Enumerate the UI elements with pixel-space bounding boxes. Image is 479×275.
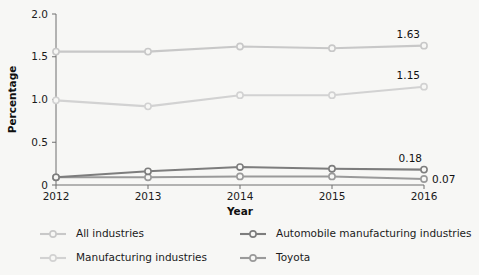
legend-item[interactable]: All industries	[40, 227, 144, 239]
y-axis-tick-label: 1.5	[31, 50, 48, 62]
legend-item-label: Automobile manufacturing industries	[276, 227, 472, 239]
legend-item-label: All industries	[76, 227, 144, 239]
legend-item-label: Toyota	[275, 251, 310, 263]
data-point-marker[interactable]	[53, 49, 59, 55]
data-point-marker[interactable]	[329, 166, 335, 172]
data-point-marker[interactable]	[329, 173, 335, 179]
data-point-marker[interactable]	[329, 45, 335, 51]
data-point-marker[interactable]	[421, 176, 427, 182]
line-chart: 00.51.01.52.020122013201420152016YearPer…	[0, 0, 479, 275]
x-axis-tick-label: 2016	[411, 190, 438, 202]
x-axis-tick-label: 2012	[43, 190, 70, 202]
data-point-label: 0.07	[432, 173, 455, 185]
series-manufacturing-industries	[53, 84, 427, 110]
data-point-marker[interactable]	[145, 49, 151, 55]
legend-item[interactable]: Toyota	[240, 251, 310, 263]
legend-swatch-marker	[250, 255, 256, 261]
y-axis-tick-label: 0.5	[31, 136, 48, 148]
y-axis-tick-label: 0	[41, 179, 48, 191]
x-axis-tick-label: 2013	[135, 190, 162, 202]
legend-swatch-marker	[50, 255, 56, 261]
y-axis-tick-label: 1.0	[31, 93, 48, 105]
x-axis-tick-label: 2014	[227, 190, 254, 202]
data-point-marker[interactable]	[421, 167, 427, 173]
legend-item[interactable]: Manufacturing industries	[40, 251, 207, 263]
data-point-marker[interactable]	[53, 97, 59, 103]
data-point-marker[interactable]	[237, 92, 243, 98]
legend-item-label: Manufacturing industries	[76, 251, 207, 263]
data-point-label: 0.18	[399, 152, 422, 164]
chart-canvas: 00.51.01.52.020122013201420152016YearPer…	[0, 0, 479, 275]
x-axis-title: Year	[226, 205, 254, 217]
legend-item[interactable]: Automobile manufacturing industries	[240, 227, 472, 239]
legend-swatch-marker	[50, 231, 56, 237]
y-axis-tick-label: 2.0	[31, 8, 48, 20]
data-point-marker[interactable]	[329, 92, 335, 98]
data-point-marker[interactable]	[237, 173, 243, 179]
x-axis-tick-label: 2015	[319, 190, 346, 202]
y-axis-title: Percentage	[6, 66, 18, 134]
legend-swatch-marker	[250, 231, 256, 237]
data-point-marker[interactable]	[421, 84, 427, 90]
data-point-marker[interactable]	[237, 164, 243, 170]
data-point-marker[interactable]	[237, 43, 243, 49]
series-all-industries	[53, 43, 427, 55]
data-point-marker[interactable]	[145, 168, 151, 174]
data-point-label: 1.63	[397, 28, 420, 40]
data-point-marker[interactable]	[421, 43, 427, 49]
data-point-label: 1.15	[397, 69, 420, 81]
data-point-marker[interactable]	[53, 174, 59, 180]
data-point-marker[interactable]	[145, 103, 151, 109]
